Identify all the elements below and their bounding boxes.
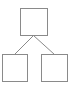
edge-root-to-left-child	[15, 36, 34, 55]
node-root	[21, 9, 48, 36]
edge-root-to-right-child	[34, 36, 55, 55]
tree-diagram-svg	[0, 0, 76, 101]
tree-diagram	[0, 0, 76, 101]
node-left-child	[3, 55, 28, 82]
node-right-child	[42, 55, 68, 82]
